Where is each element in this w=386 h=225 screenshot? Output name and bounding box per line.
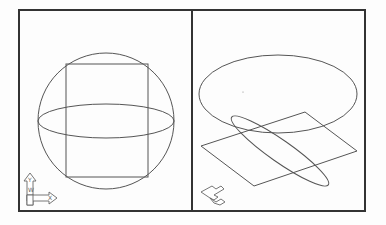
equator-ellipse[interactable]: [38, 104, 174, 138]
viewport-right-frame: [192, 10, 365, 211]
y-axis-label: Y: [27, 176, 32, 183]
ucs-origin-box: [27, 195, 33, 205]
ucs-icon-left: Y W X: [24, 173, 57, 205]
drawing-canvas[interactable]: Y W X: [0, 0, 386, 225]
viewport-right[interactable]: [192, 10, 365, 211]
center-point: [242, 91, 243, 92]
x-axis-label: X: [48, 194, 52, 201]
rectangle[interactable]: [66, 64, 148, 177]
sphere-circle[interactable]: [38, 53, 174, 189]
viewport-left-frame: [19, 10, 192, 211]
viewport-left[interactable]: Y W X: [19, 10, 192, 211]
tilted-ellipse[interactable]: [225, 108, 334, 194]
ucs-icon-right: [201, 186, 225, 205]
isometric-ucs-x-arrow-icon: [201, 186, 224, 200]
isometric-ucs-y-arrow-icon: [210, 198, 225, 205]
w-label: W: [28, 186, 34, 193]
